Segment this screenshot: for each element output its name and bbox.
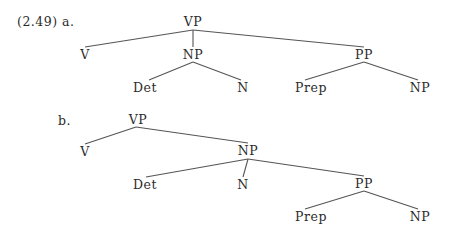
edge-a-np-n — [193, 62, 241, 80]
edge-a-pp-prep — [305, 62, 364, 80]
node-a-np: NP — [183, 49, 204, 62]
node-a-v: V — [80, 49, 90, 62]
edge-a-vp-pp — [193, 30, 364, 47]
node-b-prep: Prep — [295, 211, 327, 224]
edge-b-vp-v — [85, 127, 136, 144]
node-b-np: NP — [238, 145, 259, 158]
node-a-vp: VP — [184, 16, 203, 29]
edge-b-np-det — [146, 159, 248, 177]
edge-b-pp-prep — [305, 191, 364, 209]
edge-b-vp-np — [136, 127, 248, 143]
node-b-v: V — [80, 146, 90, 159]
node-b-pp: PP — [355, 178, 373, 191]
node-b-vp: VP — [129, 114, 148, 127]
node-b-pp-np: NP — [410, 211, 431, 224]
node-b-det: Det — [133, 179, 157, 192]
example-number: (2.49) — [17, 16, 58, 29]
edge-a-vp-v — [85, 30, 193, 47]
node-a-pp-np: NP — [410, 82, 431, 95]
edge-a-pp-np — [364, 62, 418, 80]
node-b-n: N — [237, 179, 249, 192]
edge-b-pp-np — [364, 191, 418, 209]
node-a-pp: PP — [355, 49, 373, 62]
tree-b-label: b. — [58, 115, 71, 128]
edge-a-np-det — [149, 62, 193, 80]
node-a-n: N — [237, 82, 249, 95]
tree-a-label: a. — [62, 16, 74, 29]
node-a-prep: Prep — [295, 82, 327, 95]
node-a-det: Det — [133, 82, 157, 95]
edge-b-np-pp — [248, 159, 364, 176]
edge-b-np-n — [243, 159, 248, 177]
